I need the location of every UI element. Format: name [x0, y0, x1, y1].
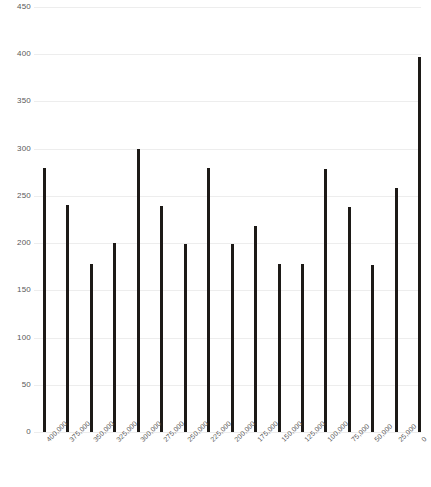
x-tick-label: 275,000: [162, 420, 185, 443]
x-tick-label: 225,000: [209, 420, 232, 443]
x-axis: 400,000375,000350,000325,000300,000275,0…: [0, 0, 431, 487]
x-tick-label: 250,000: [186, 420, 209, 443]
x-tick-label: 300,000: [139, 420, 162, 443]
x-tick-label: 375,000: [68, 420, 91, 443]
x-tick-label: 200,000: [233, 420, 256, 443]
x-tick-label: 325,000: [115, 420, 138, 443]
x-tick-label: 125,000: [303, 420, 326, 443]
x-tick-label: 0: [420, 435, 428, 443]
bar-chart: 050100150200250300350400450 400,000375,0…: [0, 0, 431, 487]
x-tick-label: 175,000: [256, 420, 279, 443]
x-tick-label: 100,000: [326, 420, 349, 443]
x-tick-label: 25,000: [397, 422, 418, 443]
x-tick-label: 400,000: [45, 420, 68, 443]
x-tick-label: 150,000: [280, 420, 303, 443]
x-tick-label: 350,000: [92, 420, 115, 443]
x-tick-label: 50,000: [373, 422, 394, 443]
x-tick-label: 75,000: [350, 422, 371, 443]
